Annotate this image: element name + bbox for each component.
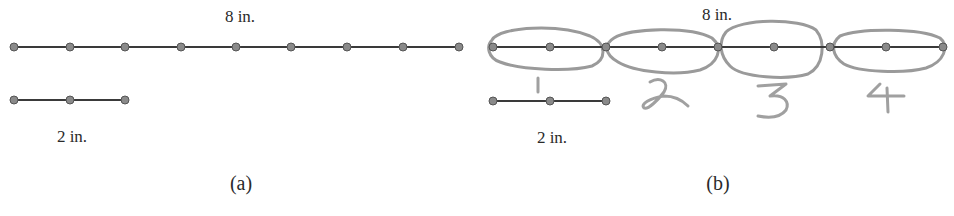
diagram-canvas: 8 in. 2 in. (a) 8 in. (0, 0, 954, 216)
handwritten-number-4 (868, 84, 904, 112)
panel-caption: (b) (706, 172, 729, 195)
handwritten-number-2 (643, 80, 688, 109)
handwritten-number-3 (758, 84, 787, 117)
long-segment-label: 8 in. (702, 5, 732, 24)
short-segment-label: 2 in. (537, 128, 567, 147)
panel-caption: (a) (230, 172, 252, 195)
panel-b: 8 in. 2 in. (b) (489, 5, 947, 195)
long-segment-label: 8 in. (225, 7, 255, 26)
short-segment-label: 2 in. (57, 127, 87, 146)
panel-a: 8 in. 2 in. (a) (10, 7, 463, 195)
group-oval-1 (489, 28, 603, 69)
group-oval-4 (834, 30, 945, 71)
